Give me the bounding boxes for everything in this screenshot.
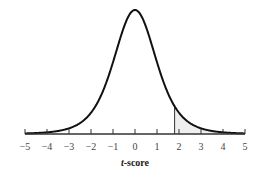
t-distribution-chart: −5−4−3−2−1012345 t-score <box>0 0 259 181</box>
x-tick-label: 2 <box>177 141 182 152</box>
x-tick-label: 5 <box>243 141 248 152</box>
x-tick-label: −1 <box>108 141 119 152</box>
x-tick-label: −4 <box>42 141 53 152</box>
x-tick-label: 3 <box>199 141 204 152</box>
density-curve <box>25 10 245 133</box>
x-tick-label: −3 <box>64 141 75 152</box>
x-axis-label-rest: -score <box>124 157 150 168</box>
x-tick-label: 4 <box>221 141 226 152</box>
x-tick-label: 1 <box>155 141 160 152</box>
x-tick-label: −5 <box>20 141 31 152</box>
x-axis-label: t-score <box>121 157 150 168</box>
x-tick-label: −2 <box>86 141 97 152</box>
x-tick-label: 0 <box>133 141 138 152</box>
